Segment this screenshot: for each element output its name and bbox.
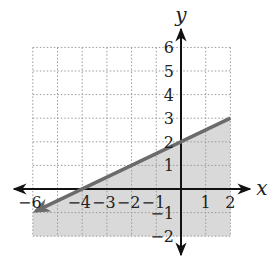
x-tick-label: −6 xyxy=(18,193,42,212)
y-tick-label: 4 xyxy=(164,86,174,105)
y-tick-label: 5 xyxy=(164,62,174,81)
y-tick-label: 1 xyxy=(164,156,174,175)
x-tick-label: 1 xyxy=(201,193,211,212)
x-axis-label: x xyxy=(256,176,267,200)
y-tick-label: −2 xyxy=(150,227,174,246)
y-axis-label: y xyxy=(174,3,187,27)
inequality-graph: xy−6−4−3−2−112654321−1−2 xyxy=(0,0,276,257)
x-tick-label: 2 xyxy=(225,193,235,212)
y-tick-label: 3 xyxy=(164,109,174,128)
x-tick-label: −4 xyxy=(67,193,91,212)
x-tick-label: −3 xyxy=(92,193,116,212)
y-tick-label: 2 xyxy=(164,133,174,152)
x-tick-label: −2 xyxy=(117,193,141,212)
y-tick-label: −1 xyxy=(150,204,174,223)
y-tick-label: 6 xyxy=(164,38,174,57)
